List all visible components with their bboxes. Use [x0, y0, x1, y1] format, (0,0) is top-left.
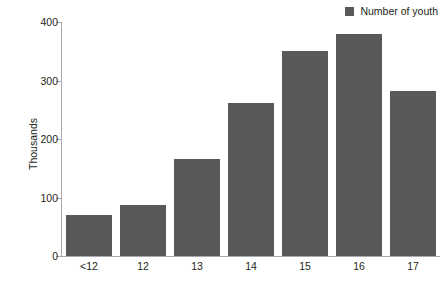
bar	[390, 91, 435, 256]
bar-chart: Number of youth Thousands 0100200300400 …	[0, 0, 444, 287]
x-axis-tick-label: 12	[116, 260, 170, 272]
bar-series-number-of-youth	[62, 22, 440, 256]
legend-label-number-of-youth: Number of youth	[360, 6, 438, 17]
bar	[228, 103, 273, 256]
chart-legend: Number of youth	[345, 4, 438, 18]
y-axis-tick-label: 100	[40, 192, 58, 203]
x-axis-tick-label: 17	[386, 260, 440, 272]
x-axis-line	[57, 256, 440, 257]
bar-slot	[386, 22, 440, 256]
bar	[120, 205, 165, 256]
x-axis-tick-label: 14	[224, 260, 278, 272]
x-axis-tick-labels: <12121314151617	[62, 260, 440, 272]
bar-slot	[170, 22, 224, 256]
bar	[336, 34, 381, 256]
y-axis-tick-label: 300	[40, 75, 58, 86]
bar	[282, 51, 327, 256]
bar-slot	[224, 22, 278, 256]
x-axis-tick-label: 13	[170, 260, 224, 272]
bar	[174, 159, 219, 256]
bar-slot	[332, 22, 386, 256]
bar-slot	[278, 22, 332, 256]
bar-slot	[62, 22, 116, 256]
plot-area: 0100200300400	[62, 22, 440, 256]
y-axis-tick-label: 400	[40, 17, 58, 28]
y-axis-title: Thousands	[28, 118, 39, 170]
y-axis-tick-label: 200	[40, 134, 58, 145]
x-axis-tick-label: 16	[332, 260, 386, 272]
x-axis-tick-label: <12	[62, 260, 116, 272]
bar	[66, 215, 111, 256]
bar-slot	[116, 22, 170, 256]
x-axis-tick-label: 15	[278, 260, 332, 272]
legend-swatch-number-of-youth	[345, 7, 354, 16]
y-axis-tick-label: 0	[52, 251, 58, 262]
